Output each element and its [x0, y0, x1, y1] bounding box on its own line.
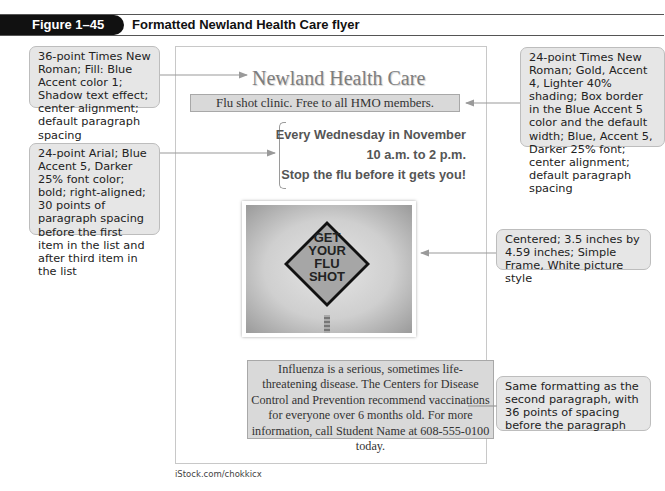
callout-list-format: 24-point Arial; Blue Accent 5, Darker 25… [29, 143, 160, 235]
callout-picture-format: Centered; 3.5 inches by 4.59 inches; Sim… [496, 229, 651, 270]
figure-title: Formatted Newland Health Care flyer [132, 15, 360, 35]
callout-subhead-format: 24-point Times New Roman; Gold, Accent 4… [520, 47, 665, 147]
figure-label: Figure 1–45 [0, 15, 124, 35]
list-item: Stop the flu before it gets you! [276, 165, 466, 185]
list-item: Every Wednesday in November [276, 125, 466, 145]
photo-credit: iStock.com/chokkicx [175, 469, 262, 479]
flyer-list: Every Wednesday in November 10 a.m. to 2… [276, 125, 466, 185]
photo-background: GET YOUR FLU SHOT [246, 205, 412, 333]
callout-title-format: 36-point Times New Roman; Fill: Blue Acc… [29, 46, 160, 108]
flu-shot-picture: GET YOUR FLU SHOT [242, 201, 416, 337]
flyer-subhead: Flu shot clinic. Free to all HMO members… [190, 94, 460, 112]
flyer-title: Newland Health Care [252, 67, 412, 90]
sign-pole [324, 315, 330, 333]
sign-text: GET YOUR FLU SHOT [282, 231, 372, 283]
list-item: 10 a.m. to 2 p.m. [276, 145, 466, 165]
figure-header: Figure 1–45 Formatted Newland Health Car… [0, 14, 664, 36]
header-rule-bottom [0, 35, 664, 36]
flyer-body-paragraph: Influenza is a serious, sometimes life-t… [247, 360, 494, 439]
callout-body-format: Same formatting as the second paragraph,… [496, 376, 651, 431]
